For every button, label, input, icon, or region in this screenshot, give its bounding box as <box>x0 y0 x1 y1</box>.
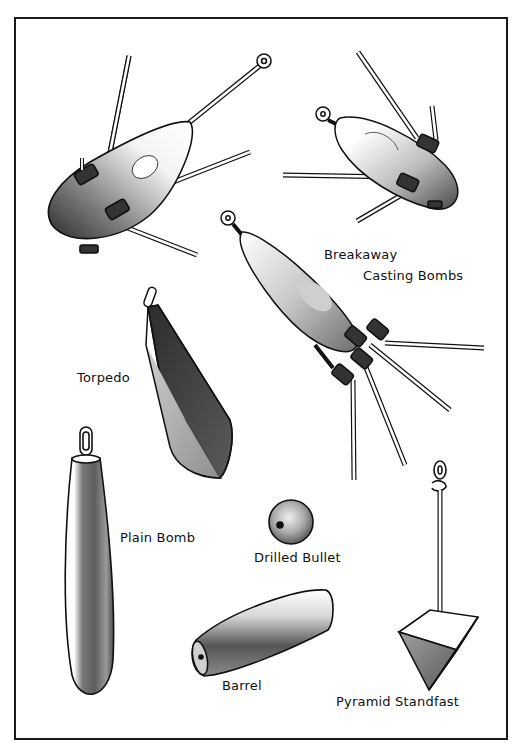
plain-bomb-sinker <box>65 427 113 694</box>
breakaway-bomb-large <box>48 54 271 255</box>
pyramid-standfast-sinker <box>399 461 478 690</box>
label-breakaway: Breakaway <box>324 247 397 262</box>
breakaway-bomb-small <box>283 52 458 221</box>
label-torpedo: Torpedo <box>77 370 130 385</box>
label-drilled-bullet: Drilled Bullet <box>254 550 341 565</box>
label-casting-bombs: Casting Bombs <box>363 268 463 283</box>
label-barrel: Barrel <box>222 678 262 693</box>
drilled-bullet-sinker <box>269 500 313 544</box>
barrel-sinker <box>190 590 333 676</box>
label-pyramid-standfast: Pyramid Standfast <box>336 694 459 709</box>
torpedo-sinker <box>143 286 232 478</box>
label-plain-bomb: Plain Bomb <box>120 530 195 545</box>
